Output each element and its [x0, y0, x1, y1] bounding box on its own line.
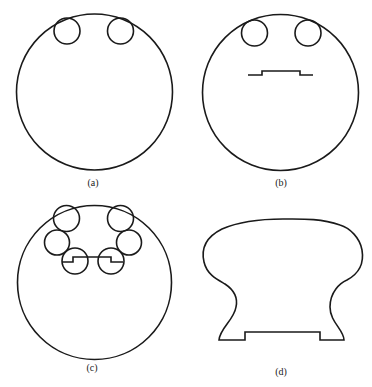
- panel-label-d: (d): [275, 366, 287, 378]
- panel-d: (d): [203, 219, 362, 378]
- step-line: [62, 257, 123, 262]
- panel-a: (a): [17, 14, 173, 189]
- outer-circle: [18, 206, 172, 360]
- outer-circle: [17, 14, 173, 170]
- small-circle-left: [242, 20, 268, 46]
- outer-circle: [203, 15, 359, 171]
- panel-label-a: (a): [87, 177, 98, 189]
- small-circle-top-left: [54, 206, 80, 232]
- panel-label-c: (c): [86, 362, 97, 374]
- profile-outline: [203, 219, 362, 340]
- small-circle-bottom-left: [62, 248, 88, 274]
- panel-c: (c): [18, 206, 172, 375]
- panel-label-b: (b): [275, 177, 287, 189]
- small-circle-right: [108, 18, 134, 44]
- small-circle-left: [54, 18, 80, 44]
- small-circle-right: [295, 20, 321, 46]
- figure-canvas: (a) (b) (c) (d): [0, 0, 372, 387]
- step-line: [248, 71, 313, 75]
- panel-b: (b): [203, 15, 359, 190]
